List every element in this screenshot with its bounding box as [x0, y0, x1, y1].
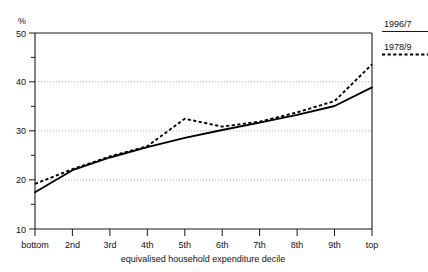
x-tick-label-bottom: bottom — [21, 240, 49, 250]
x-axis-ticks — [35, 229, 372, 236]
line-chart: 50 40 30 20 10 % bottom 2nd 3rd 4th — [0, 0, 428, 272]
x-tick-label-3rd: 3rd — [103, 240, 116, 250]
x-tick-label-6th: 6th — [216, 240, 229, 250]
y-tick-label-40: 40 — [16, 77, 26, 87]
y-axis-ticks — [29, 33, 35, 229]
x-tick-label-7th: 7th — [253, 240, 266, 250]
chart-container: 50 40 30 20 10 % bottom 2nd 3rd 4th — [0, 0, 428, 272]
x-axis-tick-labels: bottom 2nd 3rd 4th 5th 6th 7th 8th 9th t… — [21, 240, 378, 250]
x-tick-label-5th: 5th — [179, 240, 192, 250]
y-axis-unit-label: % — [18, 16, 26, 26]
y-tick-label-30: 30 — [16, 126, 26, 136]
x-tick-label-4th: 4th — [141, 240, 154, 250]
x-tick-label-8th: 8th — [291, 240, 304, 250]
legend: 1996/7 1978/9 — [382, 19, 428, 55]
x-tick-label-2nd: 2nd — [65, 240, 80, 250]
y-tick-label-50: 50 — [16, 29, 26, 39]
legend-label-1996-7: 1996/7 — [384, 19, 412, 29]
y-axis-tick-labels: 50 40 30 20 10 — [16, 29, 26, 235]
x-axis-title: equivalised household expenditure decile — [121, 254, 286, 264]
x-tick-label-9th: 9th — [328, 240, 341, 250]
x-tick-label-top: top — [366, 240, 379, 250]
y-tick-label-20: 20 — [16, 175, 26, 185]
y-tick-label-10: 10 — [16, 225, 26, 235]
legend-label-1978-9: 1978/9 — [384, 42, 412, 52]
